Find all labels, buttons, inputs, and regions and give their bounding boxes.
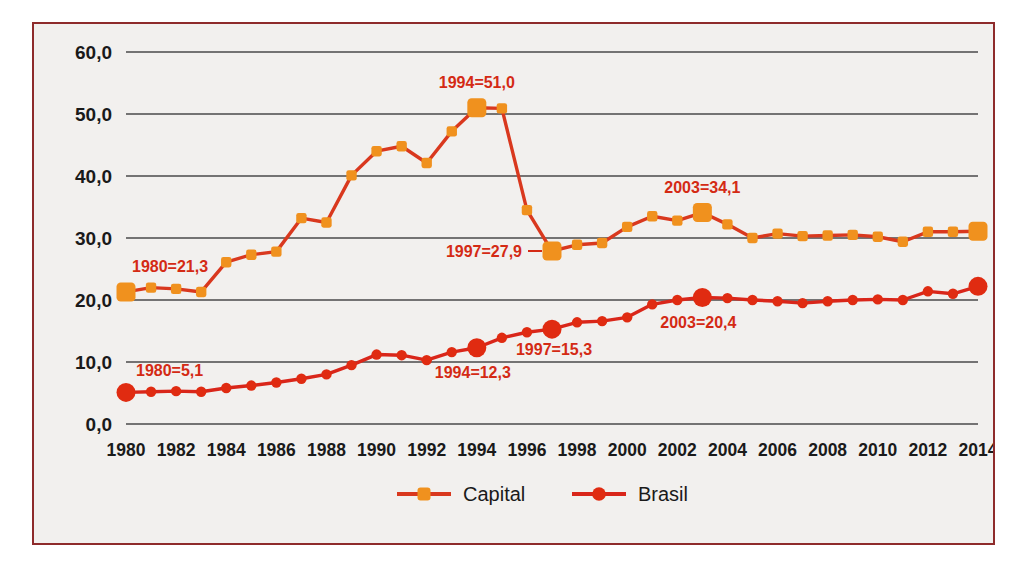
- chart-annotations: 1980=21,31994=51,01997=27,92003=34,11980…: [132, 74, 740, 381]
- data-point-marker: [693, 288, 712, 307]
- x-axis-tick-label: 2004: [708, 440, 747, 460]
- x-axis-tick-label: 1996: [507, 440, 546, 460]
- x-axis-tick-label: 1980: [107, 440, 146, 460]
- data-point-marker: [497, 333, 507, 343]
- data-point-marker: [948, 289, 958, 299]
- data-point-marker: [221, 257, 231, 267]
- data-point-marker: [522, 327, 532, 337]
- y-axis-tick-label: 50,0: [75, 104, 112, 125]
- annotation-label: 2003=34,1: [664, 179, 740, 196]
- annotation-label: 1994=12,3: [435, 364, 511, 381]
- x-axis-tick-label: 2008: [808, 440, 847, 460]
- series-line-capital: [126, 108, 978, 292]
- data-point-marker: [969, 222, 988, 241]
- data-point-marker: [371, 146, 381, 156]
- annotation-label: 1994=51,0: [439, 74, 515, 91]
- chart-figure-frame: 0,010,020,030,040,050,060,0 198019821984…: [32, 22, 995, 545]
- y-axis-tick-label: 20,0: [75, 290, 112, 311]
- x-axis-tick-label: 2012: [908, 440, 947, 460]
- data-point-marker: [543, 242, 562, 261]
- data-point-marker: [296, 213, 306, 223]
- x-axis-tick-label: 1982: [157, 440, 196, 460]
- legend-label-capital: Capital: [463, 483, 525, 505]
- x-axis-tick-label: 1984: [207, 440, 246, 460]
- data-point-marker: [497, 103, 507, 113]
- data-point-marker: [969, 277, 988, 296]
- y-axis-tick-label: 0,0: [86, 414, 112, 435]
- data-point-marker: [647, 299, 657, 309]
- y-axis-tick-label: 40,0: [75, 166, 112, 187]
- data-point-marker: [396, 141, 406, 151]
- data-point-marker: [196, 387, 206, 397]
- data-point-marker: [722, 219, 732, 229]
- data-point-marker: [772, 296, 782, 306]
- data-point-marker: [146, 282, 156, 292]
- x-axis-tick-label: 2002: [658, 440, 697, 460]
- data-point-marker: [693, 203, 712, 222]
- data-point-marker: [117, 282, 136, 301]
- legend-marker-capital: [418, 488, 431, 501]
- data-point-marker: [422, 355, 432, 365]
- data-point-marker: [447, 347, 457, 357]
- data-point-marker: [447, 126, 457, 136]
- x-axis-tick-label: 2014: [959, 440, 993, 460]
- data-point-marker: [848, 230, 858, 240]
- data-point-marker: [923, 286, 933, 296]
- data-point-marker: [898, 237, 908, 247]
- x-axis-tick-label: 2006: [758, 440, 797, 460]
- legend-marker-brasil: [592, 487, 606, 501]
- data-point-marker: [672, 215, 682, 225]
- data-point-marker: [271, 377, 281, 387]
- data-point-marker: [171, 386, 181, 396]
- data-point-marker: [246, 250, 256, 260]
- x-axis-tick-label: 1986: [257, 440, 296, 460]
- data-point-marker: [822, 296, 832, 306]
- x-axis-tick-label: 1998: [558, 440, 597, 460]
- data-point-marker: [321, 369, 331, 379]
- data-point-marker: [396, 350, 406, 360]
- data-point-marker: [722, 293, 732, 303]
- x-axis-tick-label: 1988: [307, 440, 346, 460]
- data-point-marker: [467, 338, 486, 357]
- data-point-marker: [146, 387, 156, 397]
- data-point-marker: [597, 238, 607, 248]
- x-axis-tick-label: 1994: [457, 440, 496, 460]
- x-axis-tick-labels: 1980198219841986198819901992199419961998…: [107, 440, 993, 460]
- data-point-marker: [873, 232, 883, 242]
- data-point-marker: [873, 294, 883, 304]
- x-axis-tick-label: 1992: [407, 440, 446, 460]
- line-chart: 0,010,020,030,040,050,060,0 198019821984…: [34, 24, 993, 543]
- x-axis-tick-label: 2000: [608, 440, 647, 460]
- data-point-marker: [647, 211, 657, 221]
- data-point-marker: [672, 295, 682, 305]
- data-point-marker: [196, 287, 206, 297]
- data-point-marker: [822, 230, 832, 240]
- x-axis-tick-label: 2010: [858, 440, 897, 460]
- data-point-marker: [346, 170, 356, 180]
- data-point-marker: [747, 233, 757, 243]
- data-point-marker: [271, 246, 281, 256]
- data-point-marker: [543, 320, 562, 339]
- annotation-label: 1980=21,3: [132, 258, 208, 275]
- annotation-label: 2003=20,4: [660, 314, 736, 331]
- legend-label-brasil: Brasil: [638, 483, 688, 505]
- data-point-marker: [747, 295, 757, 305]
- data-point-marker: [622, 312, 632, 322]
- data-point-marker: [171, 284, 181, 294]
- x-axis-tick-label: 1990: [357, 440, 396, 460]
- annotation-label: 1997=27,9: [446, 243, 522, 260]
- data-point-marker: [797, 231, 807, 241]
- data-point-marker: [117, 383, 136, 402]
- annotation-label: 1980=5,1: [136, 362, 203, 379]
- chart-legend: CapitalBrasil: [397, 483, 688, 505]
- data-point-marker: [467, 98, 486, 117]
- data-point-marker: [321, 217, 331, 227]
- data-point-marker: [572, 240, 582, 250]
- data-point-marker: [296, 374, 306, 384]
- data-point-marker: [948, 227, 958, 237]
- y-axis-tick-label: 30,0: [75, 228, 112, 249]
- data-point-marker: [246, 380, 256, 390]
- data-point-marker: [772, 228, 782, 238]
- data-point-marker: [572, 317, 582, 327]
- data-point-marker: [522, 205, 532, 215]
